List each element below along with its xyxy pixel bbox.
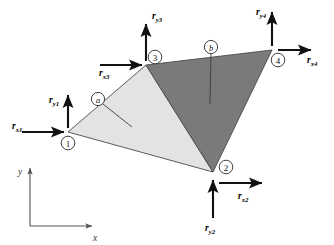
node-label-4: 4 xyxy=(276,56,281,66)
force-label-ry4: ry4 xyxy=(256,7,267,18)
global-x-axis-label: x xyxy=(92,233,98,243)
element-b-label: b xyxy=(209,43,213,53)
force-label-ry3: ry3 xyxy=(152,11,163,22)
force-label-rx1: rx1 xyxy=(12,121,23,132)
node-label-3: 3 xyxy=(153,53,158,63)
global-coordinate-axes: x y xyxy=(17,167,98,243)
node-label-1: 1 xyxy=(66,139,71,149)
finite-element-mesh-diagram: a b rx1 ry1 rx2 xyxy=(0,0,334,245)
force-label-ry2: ry2 xyxy=(205,223,216,234)
node-label-2: 2 xyxy=(224,163,229,173)
force-label-rx3: rx3 xyxy=(99,68,110,79)
force-label-ry1: ry1 xyxy=(49,95,59,106)
element-a-label: a xyxy=(96,95,100,105)
global-y-axis-label: y xyxy=(17,167,23,177)
force-label-rx4: rx4 xyxy=(307,55,318,66)
figure-container: a b rx1 ry1 rx2 xyxy=(0,0,334,245)
force-label-rx2: rx2 xyxy=(238,191,249,202)
